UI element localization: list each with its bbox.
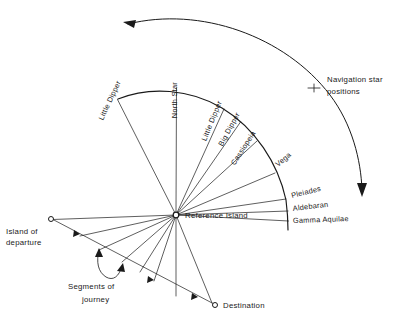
destination-label: Destination [223,301,265,310]
navigation-star-positions-label-line2: positions [327,87,360,96]
segments-of-journey-brace-group [95,248,125,279]
segments-of-journey-label-line1: Segments of [68,282,115,291]
star-label-cassiopeia: Cassiopeia [229,129,258,167]
navigation-star-positions-label-line1: Navigation star [327,75,383,84]
segments-brace-arrowhead-left [95,248,103,257]
travel-line-group [52,219,214,304]
navigation-arc-arrowhead-end [357,183,367,197]
reference-island-label: Reference Island [185,211,248,220]
navigation-arc-arrowhead-start [123,20,136,28]
star-label-vega: Vega [274,150,294,169]
island-of-departure-marker [49,217,54,222]
island-of-departure-label-line2: departure [6,238,42,247]
navigation-star-arc [128,19,362,190]
bearing-arc-group [118,91,288,230]
travel-arrowhead-2 [147,276,154,283]
travel-arrowhead-1 [73,230,80,237]
segments-of-journey-label-line2: journey [81,295,109,304]
star-bearing-rays [118,88,289,221]
star-labels: Little Dipper North Star Little Dipper B… [97,79,349,225]
destination-marker [213,303,218,308]
diagram-canvas: Little Dipper North Star Little Dipper B… [0,0,407,331]
island-of-departure-label-line1: Island of [6,227,38,236]
navigation-star-leader [308,84,320,92]
star-navigation-diagram: Little Dipper North Star Little Dipper B… [0,0,407,331]
star-label-pleiades: Pleiades [290,184,322,200]
star-label-gamma-aquilae: Gamma Aquilae [293,214,349,225]
star-label-little-dipper-upper: Little Dipper [97,79,123,122]
point-labels: Reference Island Destination Island of d… [6,75,383,310]
navigation-star-leader-group [308,84,320,92]
ray-little-dipper [176,109,224,215]
reference-island-marker [173,212,179,218]
star-label-north-star: North Star [170,82,179,118]
segments-brace-arrowhead-right [117,263,125,272]
star-label-big-dipper: Big Dipper [216,110,241,147]
journey-ray-3 [99,215,176,250]
star-label-aldebaran: Aldebaran [292,200,329,213]
ray-little-dipper-upper [118,100,177,216]
navigation-star-arc-group [123,19,367,197]
journey-ray-8 [176,215,212,303]
bearing-arc [118,91,288,230]
